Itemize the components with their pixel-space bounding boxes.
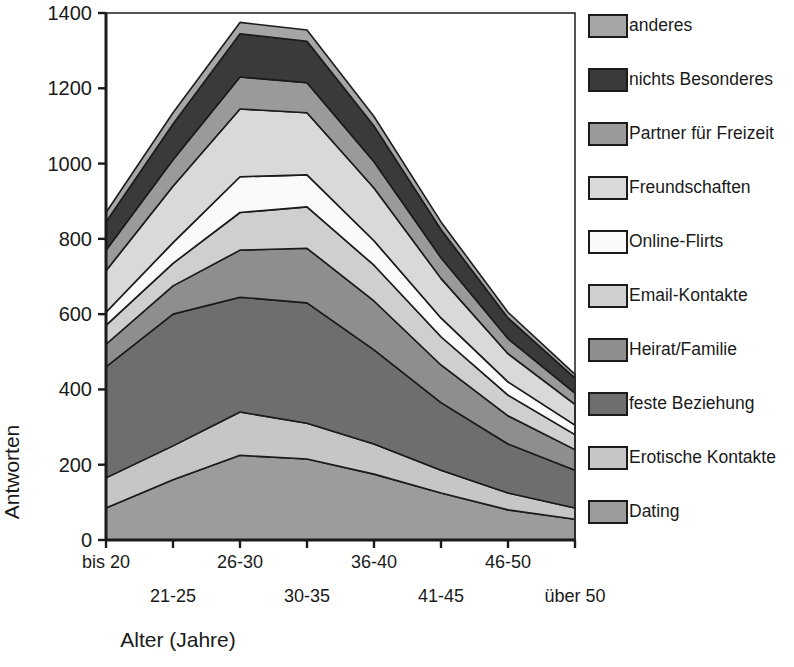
legend-item[interactable]: Dating <box>588 498 680 526</box>
legend-swatch <box>588 392 628 416</box>
area-series-group <box>106 22 575 540</box>
x-axis-title: Alter (Jahre) <box>48 628 308 652</box>
legend-item[interactable]: Erotische Kontakte <box>588 444 776 472</box>
legend: anderesnichts BesonderesPartner für Frei… <box>588 0 794 560</box>
y-axis-tick-label: 200 <box>59 454 92 476</box>
y-axis-tick-label: 1200 <box>48 77 93 99</box>
legend-swatch <box>588 500 628 524</box>
legend-swatch <box>588 122 628 146</box>
x-axis: bis 2021-2526-3030-3536-4041-4546-50über… <box>82 540 606 606</box>
y-axis-title: Antworten <box>0 372 24 572</box>
legend-label: Heirat/Familie <box>629 341 737 359</box>
y-axis-tick-label: 800 <box>59 228 92 250</box>
y-axis-tick-label: 1000 <box>48 153 93 175</box>
legend-item[interactable]: Partner für Freizeit <box>588 120 774 148</box>
x-axis-tick-label: bis 20 <box>82 552 130 572</box>
y-axis-tick-label: 0 <box>81 529 92 551</box>
x-axis-tick-label: 26-30 <box>217 552 263 572</box>
legend-swatch <box>588 230 628 254</box>
legend-item[interactable]: feste Beziehung <box>588 390 755 418</box>
legend-label: anderes <box>629 17 692 35</box>
legend-label: Freundschaften <box>629 179 751 197</box>
legend-label: Online-Flirts <box>629 233 723 251</box>
legend-label: nichts Besonderes <box>629 71 773 89</box>
x-axis-tick-label: 30-35 <box>284 586 330 606</box>
legend-label: Erotische Kontakte <box>629 449 776 467</box>
legend-swatch <box>588 14 628 38</box>
legend-swatch <box>588 68 628 92</box>
x-axis-tick-label: 21-25 <box>150 586 196 606</box>
x-axis-tick-label: 41-45 <box>418 586 464 606</box>
legend-label: Email-Kontakte <box>629 287 748 305</box>
legend-item[interactable]: Heirat/Familie <box>588 336 737 364</box>
x-axis-tick-label: 46-50 <box>485 552 531 572</box>
x-axis-tick-label: über 50 <box>544 586 605 606</box>
legend-swatch <box>588 338 628 362</box>
legend-label: feste Beziehung <box>629 395 755 413</box>
legend-item[interactable]: nichts Besonderes <box>588 66 773 94</box>
legend-swatch <box>588 446 628 470</box>
y-axis-title-wrap: Antworten <box>0 375 198 405</box>
x-axis-tick-label: 36-40 <box>351 552 397 572</box>
legend-item[interactable]: Email-Kontakte <box>588 282 748 310</box>
stacked-area-chart: Antworten 0200400600800100012001400 bis … <box>0 0 794 667</box>
legend-item[interactable]: Online-Flirts <box>588 228 723 256</box>
legend-swatch <box>588 176 628 200</box>
y-axis: 0200400600800100012001400 <box>48 2 107 551</box>
legend-label: Dating <box>629 503 680 521</box>
y-axis-tick-label: 1400 <box>48 2 93 24</box>
legend-swatch <box>588 284 628 308</box>
y-axis-tick-label: 600 <box>59 303 92 325</box>
legend-label: Partner für Freizeit <box>629 125 774 143</box>
legend-item[interactable]: Freundschaften <box>588 174 751 202</box>
legend-item[interactable]: anderes <box>588 12 692 40</box>
